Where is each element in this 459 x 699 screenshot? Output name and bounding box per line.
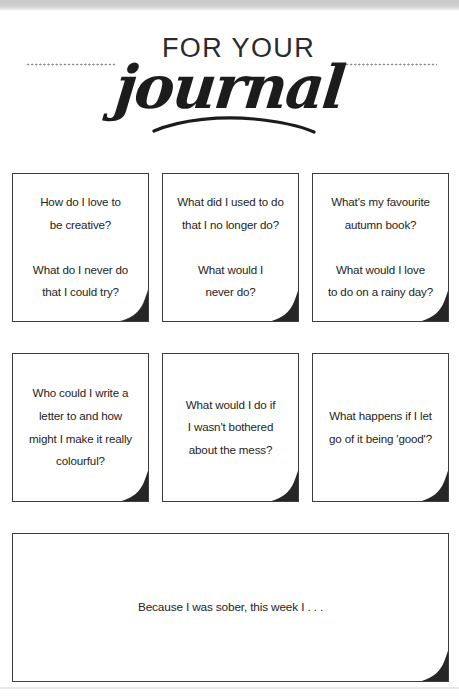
prompt-card-2-text: What did I used to do that I no longer d… — [169, 191, 291, 304]
page-bottom-edge-line — [0, 687, 459, 689]
prompt-card-wide-reflection[interactable]: Because I was sober, this week I . . . — [12, 533, 449, 682]
prompt-card-4[interactable]: Who could I write a letter to and how mi… — [12, 353, 149, 502]
prompt-row-2: Who could I write a letter to and how mi… — [12, 353, 449, 502]
page-header: FOR YOUR journal — [0, 11, 459, 161]
prompt-card-5-text: What would I do if I wasn't bothered abo… — [178, 394, 283, 462]
page-title-script: journal — [0, 57, 459, 117]
prompt-card-4-text: Who could I write a letter to and how mi… — [21, 382, 140, 472]
prompt-card-grid: How do I love to be creative? What do I … — [12, 173, 449, 682]
prompt-card-5[interactable]: What would I do if I wasn't bothered abo… — [162, 353, 299, 502]
page-top-edge-band — [0, 0, 459, 11]
prompt-card-6-text: What happens if I let go of it being 'go… — [321, 405, 440, 450]
prompt-row-1: How do I love to be creative? What do I … — [12, 173, 449, 322]
prompt-card-1[interactable]: How do I love to be creative? What do I … — [12, 173, 149, 322]
prompt-card-6[interactable]: What happens if I let go of it being 'go… — [312, 353, 449, 502]
prompt-card-3-text: What's my favourite autumn book? What wo… — [320, 191, 441, 304]
journal-page-sheet: FOR YOUR journal How do I love to be cre… — [0, 11, 459, 699]
page-curl-icon — [415, 648, 449, 682]
page-curl-icon — [115, 468, 149, 502]
prompt-card-wide-text: Because I was sober, this week I . . . — [130, 598, 331, 617]
page-curl-icon — [265, 468, 299, 502]
prompt-card-1-text: How do I love to be creative? What do I … — [25, 191, 136, 304]
prompt-card-3[interactable]: What's my favourite autumn book? What wo… — [312, 173, 449, 322]
page-curl-icon — [415, 468, 449, 502]
journal-wordmark: FOR YOUR journal — [0, 11, 459, 161]
prompt-card-2[interactable]: What did I used to do that I no longer d… — [162, 173, 299, 322]
